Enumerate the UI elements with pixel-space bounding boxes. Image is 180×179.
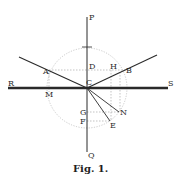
reflected-ray-C-B — [87, 55, 157, 88]
label-H: H — [110, 62, 117, 71]
label-G: G — [80, 108, 86, 117]
label-A: A — [42, 67, 49, 76]
label-F: F — [80, 117, 86, 126]
refracted-ray-C-N — [87, 88, 119, 112]
incident-ray-A-C — [19, 57, 87, 88]
label-D: D — [89, 62, 95, 71]
label-E: E — [110, 121, 116, 130]
label-C: C — [86, 78, 92, 87]
label-S: S — [168, 79, 173, 88]
label-P: P — [89, 13, 95, 22]
label-M: M — [45, 90, 53, 99]
refracted-ray-C-E — [87, 88, 110, 121]
label-Q: Q — [88, 151, 95, 160]
label-B: B — [126, 66, 132, 75]
label-N: N — [120, 108, 127, 117]
label-R: R — [8, 79, 15, 88]
refraction-diagram: P Q R S A B C D H M G N F E Fig. 1. — [0, 0, 180, 179]
figure-caption: Fig. 1. — [73, 163, 108, 174]
